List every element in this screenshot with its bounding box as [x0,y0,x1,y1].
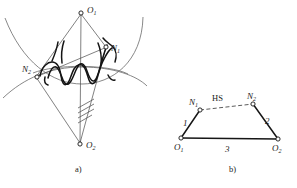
label-link-3: 3 [224,144,230,154]
centre-line-O1-O2 [80,14,81,143]
tooth-profile-right-hook [98,43,101,64]
figure-root: O1 N1 N2 O2 [0,0,297,188]
panel-b-linkage: N1 N2 O1 O2 1 2 3 HS [174,91,282,154]
link-3-bar [181,138,278,139]
node-N2-panel-a [35,75,39,79]
label-hs: HS [212,93,223,103]
node-O2-panel-b [276,137,280,141]
node-N2-panel-b [251,102,255,106]
label-O2-panel-a: O2 [86,140,96,151]
technical-figure: O1 N1 N2 O2 [0,0,297,188]
label-O1-panel-b: O1 [174,142,184,153]
coupler-hs-bar [200,104,253,110]
label-link-1: 1 [183,118,188,128]
label-O1-panel-a: O1 [87,5,97,16]
line-O1-N1 [81,14,106,47]
line-N2-O2 [36,77,80,143]
label-N1-panel-a: N1 [110,43,120,54]
node-O1-panel-b [179,136,183,140]
label-O2-panel-b: O2 [272,143,282,154]
node-O1-panel-a [79,11,83,15]
label-N1-panel-b: N1 [188,97,198,108]
tooth-profile-flank-right [108,75,115,80]
panel-a-gear-mesh: O1 N1 N2 O2 [3,5,147,151]
tooth-profile-left-tail [52,42,58,61]
node-N1-panel-b [198,108,202,112]
caption-b: b) [229,164,236,174]
tooth-profile-left-hook [62,41,64,63]
node-N1-panel-a [104,45,108,49]
label-N2-panel-b: N2 [246,91,256,102]
node-O2-panel-a [78,142,82,146]
label-N2-panel-a: N2 [21,64,31,75]
caption-a: a) [75,164,82,174]
label-link-2: 2 [265,116,270,126]
